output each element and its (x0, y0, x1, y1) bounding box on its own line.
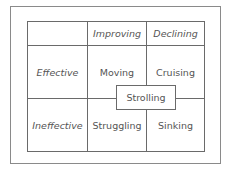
column-header-declining: Declining (147, 22, 204, 45)
center-box-strolling: Strolling (116, 85, 176, 110)
column-header-improving: Improving (88, 22, 146, 45)
row-header-effective: Effective (28, 46, 87, 98)
row-header-ineffective: Ineffective (28, 99, 87, 151)
center-label: Strolling (126, 92, 165, 103)
